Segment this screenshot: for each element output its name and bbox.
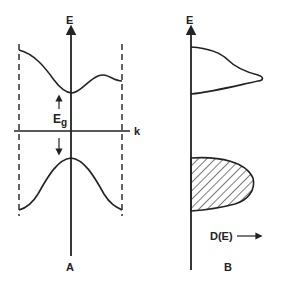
panel-a-caption: A [66,261,74,273]
panel-b-caption: B [224,261,232,273]
k-axis-label: k [134,125,141,137]
energy-axis-label-a: E [66,14,73,26]
energy-axis-label-b: E [186,14,193,26]
panel-b: E D(E) B [186,14,263,273]
upper-band-density [191,47,263,94]
band-gap-label: Eg [53,112,67,128]
panel-a: E k Eg A [14,14,141,273]
band-structure-diagram: E k Eg A E D(E) B [0,0,297,282]
density-axis-label: D(E) [210,230,233,242]
lower-band-density-filled [191,158,254,211]
